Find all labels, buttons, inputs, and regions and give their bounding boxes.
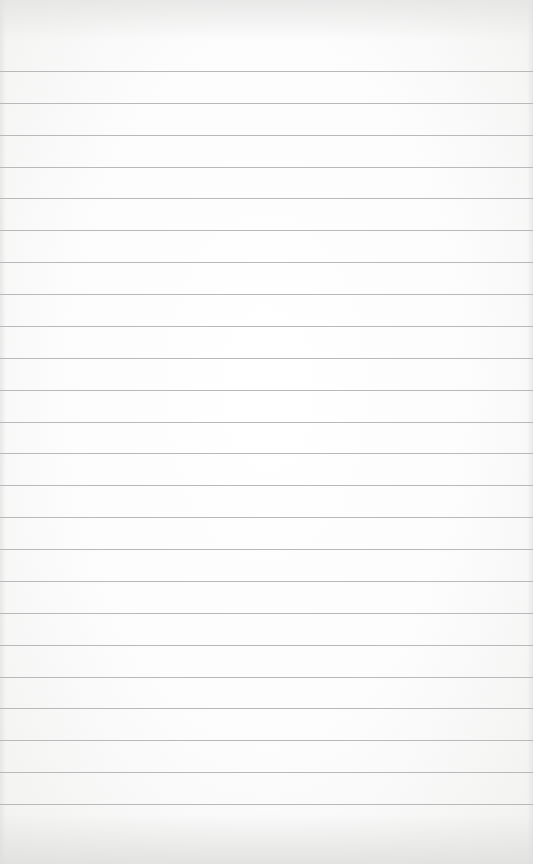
ruled-line [0,517,533,518]
ruled-line [0,294,533,295]
ruled-line [0,453,533,454]
ruled-line [0,198,533,199]
ruled-line [0,422,533,423]
lined-paper-page [0,0,533,864]
ruled-line [0,167,533,168]
ruled-line [0,804,533,805]
ruled-line [0,230,533,231]
paper-edge-bottom [0,814,533,864]
ruled-line [0,740,533,741]
ruled-line [0,708,533,709]
ruled-line [0,645,533,646]
ruled-line [0,485,533,486]
ruled-line [0,772,533,773]
paper-edge-left [0,0,6,864]
ruled-line [0,326,533,327]
ruled-line [0,103,533,104]
ruled-line [0,677,533,678]
ruled-line [0,358,533,359]
paper-edge-top [0,0,533,40]
ruled-line [0,71,533,72]
ruled-line [0,581,533,582]
ruled-line [0,262,533,263]
ruled-line [0,390,533,391]
ruled-line [0,613,533,614]
ruled-line [0,549,533,550]
ruled-line [0,135,533,136]
paper-edge-right [527,0,533,864]
